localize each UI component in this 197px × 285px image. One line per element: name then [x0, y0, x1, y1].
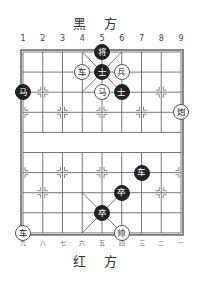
red-chariot-piece[interactable]: 车 — [15, 225, 31, 241]
red-side-title: 红 方 — [0, 251, 197, 270]
black-advisor-piece[interactable]: 士 — [114, 84, 130, 100]
red-soldier-piece[interactable]: 兵 — [114, 64, 130, 80]
red-general-piece[interactable]: 帅 — [114, 225, 130, 241]
black-pawn-piece[interactable]: 卒 — [114, 185, 130, 201]
black-advisor-piece[interactable]: 士 — [94, 64, 110, 80]
xiangqi-board — [0, 0, 197, 285]
black-general-piece[interactable]: 将 — [94, 44, 110, 60]
black-pawn-piece[interactable]: 卒 — [94, 205, 110, 221]
black-chariot-piece[interactable]: 车 — [134, 165, 150, 181]
